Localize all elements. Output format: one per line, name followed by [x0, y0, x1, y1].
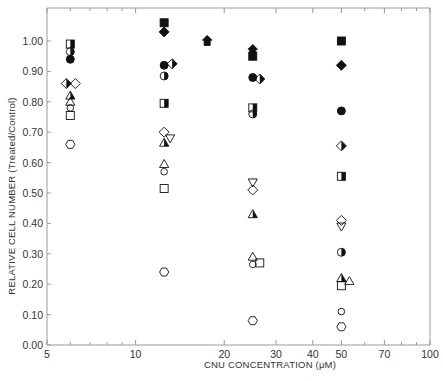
x-tick-label: 10	[130, 348, 142, 360]
data-point	[161, 168, 168, 175]
data-point	[337, 274, 346, 282]
data-point	[160, 138, 169, 146]
data-point	[202, 35, 212, 45]
data-point	[249, 110, 257, 118]
y-tick-label: 0.20	[23, 278, 44, 290]
data-point	[337, 107, 345, 115]
data-point	[337, 223, 346, 231]
data-point	[336, 60, 346, 70]
data-point	[66, 140, 75, 148]
data-point	[345, 277, 354, 285]
data-point	[167, 59, 177, 69]
data-point	[248, 317, 257, 325]
x-axis: 5102030405070100	[44, 8, 439, 360]
y-tick-label: 0.40	[23, 217, 44, 229]
data-point	[337, 282, 345, 290]
data-point	[66, 40, 74, 48]
y-tick-label: 0.60	[23, 157, 44, 169]
data-point	[160, 61, 168, 69]
x-tick-label: 70	[379, 348, 391, 360]
plot-border	[47, 8, 430, 345]
y-tick-label: 0.50	[23, 187, 44, 199]
data-point	[337, 323, 346, 331]
x-tick-label: 5	[44, 348, 50, 360]
y-tick-label: 0.10	[23, 309, 44, 321]
data-point	[337, 37, 345, 45]
data-point	[160, 268, 169, 276]
y-tick-label: 1.00	[23, 35, 44, 47]
data-point	[66, 55, 74, 63]
data-point	[337, 172, 345, 180]
data-point	[336, 215, 346, 225]
y-axis-title: RELATIVE CELL NUMBER (Treated/Control)	[6, 97, 17, 294]
y-tick-label: 0.80	[23, 96, 44, 108]
data-point	[336, 141, 346, 151]
data-point	[166, 135, 175, 143]
data-point	[249, 52, 257, 60]
data-point	[160, 99, 168, 107]
data-point	[248, 179, 257, 187]
data-point	[159, 27, 169, 37]
data-points	[61, 19, 354, 331]
data-point	[66, 48, 74, 56]
y-tick-label: 0.90	[23, 65, 44, 77]
y-tick-label: 0.30	[23, 248, 44, 260]
data-point	[337, 248, 345, 256]
x-tick-label: 50	[336, 348, 348, 360]
data-point	[160, 184, 168, 192]
scatter-chart: 5102030405070100 0.000.100.200.300.400.5…	[0, 0, 443, 381]
x-tick-label: 100	[421, 348, 439, 360]
data-point	[338, 308, 345, 315]
y-tick-label: 0.70	[23, 126, 44, 138]
x-axis-title: CNU CONCENTRATION (μM)	[204, 359, 336, 370]
data-point	[66, 111, 74, 119]
data-point	[159, 127, 169, 137]
data-point	[249, 261, 256, 268]
data-point	[160, 19, 168, 27]
plot-frame	[47, 8, 430, 345]
y-tick-label: 0.00	[23, 339, 44, 351]
data-point	[160, 160, 169, 168]
data-point	[248, 210, 257, 218]
data-point	[160, 72, 168, 80]
